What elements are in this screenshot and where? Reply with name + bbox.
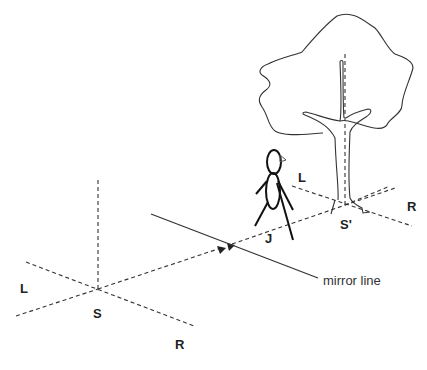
label-source-right: R [175, 338, 184, 351]
source-back-axis [16, 289, 98, 316]
image-lr-axis [292, 186, 412, 226]
label-image-right: R [407, 200, 416, 213]
label-source-left: L [20, 282, 28, 295]
sight-line-to-mirror [98, 247, 224, 289]
sight-line-to-image [232, 188, 395, 244]
tree [259, 14, 413, 214]
label-person: J [265, 232, 272, 245]
label-source-point: S [93, 307, 102, 320]
label-image-left: L [298, 171, 306, 184]
image-back-axis [345, 186, 390, 205]
mirror-diagram [0, 0, 427, 370]
stick-figure [255, 150, 293, 240]
tree-root-left [331, 200, 335, 214]
arrowhead-incoming [217, 246, 226, 254]
label-mirror-line: mirror line [323, 274, 381, 287]
figure-right-leg [277, 183, 293, 240]
figure-left-leg [255, 202, 268, 226]
image-axes [292, 52, 412, 226]
source-lr-axis [26, 262, 194, 326]
figure-head [267, 150, 281, 174]
source-axes [16, 180, 194, 326]
tree-crown [259, 14, 413, 134]
label-image-point: S' [340, 218, 352, 231]
tree-trunk-left [303, 61, 344, 201]
